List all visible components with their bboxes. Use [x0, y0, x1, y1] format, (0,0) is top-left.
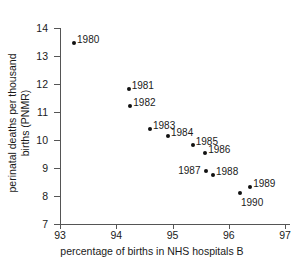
y-axis-title-line: births (PNMR) [19, 8, 32, 238]
y-axis-title-line: perinatal deaths per thousand [6, 8, 19, 238]
x-tick-label: 96 [214, 229, 244, 241]
y-tick-mark [54, 112, 60, 113]
data-point-label: 1980 [77, 35, 99, 45]
y-tick-mark [54, 56, 60, 57]
plot-area: 1413121110987 9394959697 198019811982198… [0, 0, 304, 265]
data-point-label: 1989 [253, 179, 275, 189]
x-tick-label: 97 [270, 229, 300, 241]
x-tick-label: 95 [158, 229, 188, 241]
data-point-label: 1987 [178, 166, 200, 176]
data-point-label: 1988 [216, 167, 238, 177]
data-point-label: 1986 [208, 145, 230, 155]
x-tick-label: 94 [101, 229, 131, 241]
data-point [128, 104, 132, 108]
x-axis-line [60, 224, 290, 225]
data-point [238, 191, 242, 195]
data-point [203, 151, 207, 155]
y-tick-mark [54, 28, 60, 29]
y-tick-mark [54, 168, 60, 169]
data-point [248, 185, 252, 189]
data-point [204, 169, 208, 173]
data-point-label: 1981 [132, 81, 154, 91]
y-tick-mark [54, 84, 60, 85]
data-point-label: 1990 [241, 198, 263, 208]
y-tick-mark [54, 140, 60, 141]
scatter-chart: 1413121110987 9394959697 198019811982198… [0, 0, 304, 265]
data-point [127, 87, 131, 91]
data-point [191, 143, 195, 147]
data-point-label: 1984 [171, 128, 193, 138]
x-axis-title: percentage of births in NHS hospitals B [0, 245, 304, 257]
y-axis-line [60, 28, 61, 224]
data-point [211, 173, 215, 177]
data-point [72, 41, 76, 45]
y-axis-title: perinatal deaths per thousandbirths (PNM… [6, 8, 32, 238]
data-point-label: 1982 [133, 98, 155, 108]
x-tick-label: 93 [45, 229, 75, 241]
y-tick-mark [54, 196, 60, 197]
data-point [148, 127, 152, 131]
data-point [166, 134, 170, 138]
